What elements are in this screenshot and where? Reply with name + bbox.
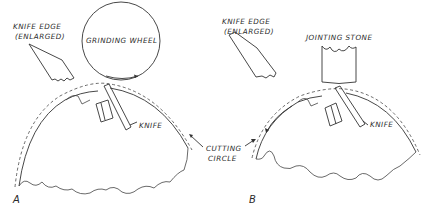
panel-b-wood-chip — [298, 98, 318, 106]
panel-b-knife — [335, 86, 365, 127]
panel-a-label: A — [12, 194, 20, 205]
cutting-circle-leader-a — [190, 135, 203, 147]
panel-a-enlarged-label: (ENLARGED) — [15, 32, 65, 41]
panel-a-knife-leader — [130, 122, 137, 125]
panel-a-knife-edge-label: KNIFE EDGE — [13, 22, 61, 31]
diagram-canvas: KNIFE EDGE (ENLARGED) GRINDING WHEEL KNI… — [0, 0, 429, 209]
panel-b-label: B — [249, 194, 256, 205]
cutting-circle-label-line2: CIRCLE — [208, 154, 237, 163]
panel-a: KNIFE EDGE (ENLARGED) GRINDING WHEEL KNI… — [12, 2, 192, 205]
panel-b-enlarged-knife-edge — [229, 32, 276, 78]
panel-a-cutting-circle — [15, 83, 192, 187]
panel-b-wood-edge — [256, 151, 416, 180]
panel-a-enlarged-knife-edge — [29, 44, 74, 81]
panel-a-wood-chip — [66, 96, 90, 105]
panel-a-gib-line — [101, 103, 105, 120]
cutting-circle-label-line1: CUTTING — [206, 144, 242, 153]
jointing-stone — [322, 46, 356, 84]
panel-a-knife — [104, 84, 131, 130]
panel-b-knife-edge-label: KNIFE EDGE — [222, 17, 270, 26]
grinding-wheel-label: GRINDING WHEEL — [86, 36, 158, 45]
panel-b-knife-label: KNIFE — [370, 120, 393, 129]
panel-a-cutterhead-arc-left — [19, 91, 98, 186]
panel-b-enlarged-label: (ENLARGED) — [224, 27, 274, 36]
panel-b: KNIFE EDGE (ENLARGED) JOINTING STONE KNI… — [222, 17, 420, 205]
panel-a-cutterhead-arc-right — [110, 88, 188, 148]
jointing-stone-label: JOINTING STONE — [304, 33, 373, 42]
panel-a-wood-edge — [19, 148, 188, 194]
panel-a-knife-label: KNIFE — [139, 121, 162, 130]
cutting-circle-callout: CUTTING CIRCLE — [189, 134, 256, 163]
panel-b-gib-line — [331, 106, 336, 124]
